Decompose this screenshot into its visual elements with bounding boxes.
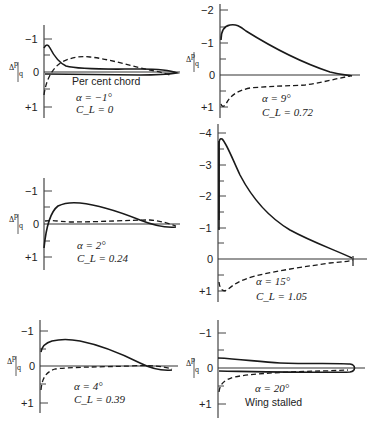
alpha-label: α = 15° <box>256 275 291 287</box>
panel-alpha-minus1: −1 0 +1 Δp q Per cent chord α = −1° C_L … <box>9 25 180 118</box>
tick-label: −4 <box>199 127 212 139</box>
panel-alpha-4: −1 0 +1 Δp q α = 4° C_L = 0.39 <box>7 320 178 413</box>
panel-alpha-2: −1 0 +1 Δp q α = 2° C_L = 0.24 <box>9 178 180 270</box>
tick-label: +1 <box>25 251 38 263</box>
y-axis-label: Δp q <box>7 353 21 376</box>
upper-surface-curve <box>221 25 352 76</box>
tick-label: −1 <box>199 327 212 339</box>
tick-label: −1 <box>25 185 38 197</box>
tick-label: −1 <box>21 325 34 337</box>
svg-text:p: p <box>14 59 18 68</box>
svg-text:q: q <box>19 221 23 230</box>
alpha-label: α = 4° <box>74 380 103 392</box>
tick-label: −1 <box>201 37 214 49</box>
cl-label: C_L = 0.39 <box>74 393 125 405</box>
pressure-distribution-figure: −1 0 +1 Δp q Per cent chord α = −1° C_L … <box>0 0 370 421</box>
tick-label: 0 <box>207 253 213 265</box>
svg-text:q: q <box>17 363 21 372</box>
alpha-label: α = 20° <box>255 382 290 394</box>
tick-label: +1 <box>21 397 34 409</box>
tick-label: 0 <box>207 362 213 374</box>
cl-label: C_L = 0.24 <box>77 252 128 264</box>
alpha-label: α = −1° <box>76 91 113 103</box>
alpha-label: α = 2° <box>77 239 106 251</box>
tick-label: −1 <box>199 222 212 234</box>
y-axis-label: Δp q <box>9 211 23 234</box>
lower-surface-curve <box>41 366 172 390</box>
y-axis-label: Δp q <box>186 355 199 378</box>
x-axis-label: Per cent chord <box>72 75 140 87</box>
alpha-label: α = 9° <box>262 92 291 104</box>
panel-alpha-20: −1 0 +1 Δp q α = 20° Wing stalled <box>186 320 365 418</box>
cl-label: C_L = 1.05 <box>256 290 307 302</box>
tick-label: +1 <box>201 101 214 113</box>
stall-label: Wing stalled <box>245 396 302 408</box>
tick-label: +1 <box>199 285 212 297</box>
tick-label: −3 <box>199 159 212 171</box>
tick-label: −2 <box>201 4 214 16</box>
tick-label: +1 <box>25 101 38 113</box>
tick-label: −2 <box>199 190 212 202</box>
tick-label: 0 <box>209 69 215 81</box>
y-axis-label: Δp q <box>186 51 199 72</box>
tick-label: 0 <box>29 360 35 372</box>
tick-label: +1 <box>199 398 212 410</box>
tick-label: 0 <box>33 218 39 230</box>
svg-text:q: q <box>19 69 23 78</box>
tick-label: 0 <box>33 66 39 78</box>
svg-text:p: p <box>14 211 18 220</box>
upper-surface-curve <box>44 203 176 248</box>
cl-label: C_L = 0.72 <box>262 106 313 118</box>
tick-label: −1 <box>25 33 38 45</box>
panel-alpha-9: −2 −1 0 +1 Δp q α = 9° C_L = 0.72 <box>186 4 360 118</box>
svg-text:p: p <box>12 353 16 362</box>
svg-text:q: q <box>195 59 199 68</box>
cl-label: C_L = 0 <box>76 103 114 115</box>
svg-text:q: q <box>195 365 199 374</box>
y-axis-label: Δp q <box>9 59 23 82</box>
upper-surface-curve <box>219 139 352 258</box>
panel-alpha-15: −4 −3 −2 −1 0 +1 α = 15° C_L = 1.05 <box>199 124 367 302</box>
